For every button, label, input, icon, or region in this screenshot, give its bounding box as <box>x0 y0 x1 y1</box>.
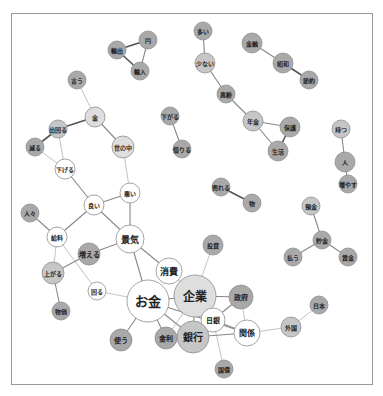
node-yunyu[interactable]: 輸入 <box>131 62 149 80</box>
node-label: 物 <box>249 200 255 208</box>
node-label: 少ない <box>195 60 214 68</box>
node-sagaru[interactable]: 下がる <box>161 107 179 125</box>
node-label: 政府 <box>234 293 248 302</box>
node-label: 物価 <box>55 308 67 316</box>
node-label: 消費 <box>160 266 178 277</box>
node-yushutsu[interactable]: 輸出 <box>108 41 126 59</box>
node-label: 高齢 <box>220 91 233 99</box>
node-ooi[interactable]: 多い <box>194 22 212 40</box>
node-label: 金利 <box>158 334 173 343</box>
node-gaikoku[interactable]: 外国 <box>281 317 301 337</box>
node-showa[interactable]: 昭和 <box>273 53 293 73</box>
node-chokin[interactable]: 貯金 <box>313 231 331 249</box>
node-warui[interactable]: 悪い <box>120 183 140 203</box>
node-label: 借りる <box>172 146 191 154</box>
node-label: 企業 <box>182 289 208 304</box>
node-demawaru[interactable]: 出回る <box>49 120 67 138</box>
node-hoken[interactable]: 保護 <box>280 117 300 137</box>
node-label: 景気 <box>121 234 139 245</box>
node-label: 増やす <box>339 181 357 189</box>
node-seikatsu[interactable]: 生活 <box>268 141 288 161</box>
node-kinri[interactable]: 金融 <box>242 33 262 53</box>
node-label: 世の中 <box>114 144 132 152</box>
node-kyuryo[interactable]: 給料 <box>47 227 67 247</box>
node-hito[interactable]: 人 <box>335 152 355 172</box>
node-label: 多い <box>197 28 209 36</box>
node-agaru[interactable]: 上がる <box>42 262 64 284</box>
node-label: 日銀 <box>206 316 220 325</box>
node-ou[interactable]: 言う <box>68 71 86 89</box>
node-yononaka[interactable]: 世の中 <box>112 136 134 158</box>
node-label: 円 <box>145 37 151 45</box>
node-label: 給料 <box>51 234 63 242</box>
node-label: 上がる <box>44 270 62 278</box>
node-shohi[interactable]: 消費 <box>156 258 182 284</box>
node-label: 出回る <box>49 126 67 134</box>
node-sageru[interactable]: 下げる <box>55 159 75 179</box>
node-label: 売れる <box>211 184 230 192</box>
node-label: 節約 <box>303 77 315 85</box>
node-label: 下げる <box>56 166 74 174</box>
node-label: 回る <box>91 288 103 296</box>
node-label: 下がる <box>161 113 179 121</box>
node-hitobito[interactable]: 人々 <box>21 204 39 222</box>
node-nenkin[interactable]: 年金 <box>243 111 263 131</box>
node-label: 金 <box>91 114 99 122</box>
node-label: 払う <box>287 254 299 262</box>
node-mono[interactable]: 物 <box>243 194 261 212</box>
node-seifu[interactable]: 政府 <box>229 285 253 309</box>
node-tsukau[interactable]: 使う <box>110 329 132 351</box>
node-layer: 輸出円輸入言う金出回る減る世の中下げる下がる借りる多い少ない高齢金融昭和節約年金… <box>21 22 357 378</box>
node-label: 言う <box>71 77 83 85</box>
node-yakusoku[interactable]: 節約 <box>300 71 318 89</box>
node-label: 生活 <box>272 148 284 156</box>
node-ginko[interactable]: 銀行 <box>177 321 209 353</box>
node-okane[interactable]: お金 <box>127 280 169 322</box>
node-label: 賃金 <box>341 254 355 262</box>
node-heru2[interactable]: 借りる <box>172 140 191 158</box>
node-kane[interactable]: 金 <box>85 107 105 127</box>
node-label: 輸入 <box>134 68 146 76</box>
node-label: 良い <box>88 202 100 210</box>
node-en[interactable]: 円 <box>139 31 157 49</box>
node-yoi[interactable]: 良い <box>84 195 104 215</box>
node-sukunai[interactable]: 少ない <box>195 53 215 73</box>
node-label: 年金 <box>247 118 260 126</box>
node-chingin[interactable]: 賃金 <box>339 248 357 266</box>
node-label: 国債 <box>218 366 230 374</box>
node-label: 預金 <box>305 203 318 211</box>
node-bukka[interactable]: 物価 <box>52 302 70 320</box>
node-fueru[interactable]: 増える <box>78 243 100 265</box>
node-fuyasu[interactable]: 増やす <box>339 175 357 193</box>
node-label: 日本 <box>313 302 326 310</box>
node-kinri2[interactable]: 金利 <box>155 327 177 349</box>
node-label: 増える <box>79 250 100 259</box>
node-label: お金 <box>135 294 162 309</box>
node-label: 輸出 <box>111 47 123 55</box>
node-label: 人々 <box>24 210 36 217</box>
node-label: 悪い <box>124 190 136 198</box>
node-label: 人 <box>342 159 349 166</box>
node-label: 持つ <box>335 126 347 134</box>
node-label: 保護 <box>283 124 297 132</box>
node-yokin[interactable]: 預金 <box>302 197 320 215</box>
node-label: 金融 <box>245 40 258 48</box>
node-mawaru[interactable]: 回る <box>88 282 106 300</box>
node-kankei[interactable]: 関係 <box>234 320 260 346</box>
node-motsu[interactable]: 持つ <box>332 120 350 138</box>
node-heru[interactable]: 減る <box>26 138 44 156</box>
node-nihon[interactable]: 日本 <box>310 296 328 314</box>
node-kokusai[interactable]: 国債 <box>215 360 233 378</box>
node-label: 貯金 <box>316 237 329 245</box>
node-keiki[interactable]: 景気 <box>116 225 144 253</box>
node-koreisha[interactable]: 高齢 <box>217 85 235 103</box>
node-label: 外国 <box>284 324 297 332</box>
node-label: 昭和 <box>277 60 289 68</box>
node-ureru[interactable]: 売れる <box>211 178 230 196</box>
node-harau[interactable]: 払う <box>284 248 302 266</box>
network-graph: 輸出円輸入言う金出回る減る世の中下げる下がる借りる多い少ない高齢金融昭和節約年金… <box>0 0 383 396</box>
node-label: 使う <box>113 336 128 345</box>
node-toshi[interactable]: 投資 <box>203 235 223 255</box>
node-label: 銀行 <box>183 331 203 343</box>
node-label: 関係 <box>239 328 255 338</box>
